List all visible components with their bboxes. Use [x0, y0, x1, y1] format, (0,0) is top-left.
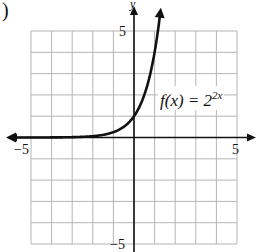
coordinate-plane — [0, 0, 258, 252]
y-tick-label-5: 5 — [119, 25, 126, 39]
axes — [8, 6, 256, 252]
x-tick-label-5: 5 — [232, 143, 239, 157]
figure-part-label: ) — [2, 0, 9, 20]
y-tick-label-neg5: −5 — [110, 238, 125, 252]
function-label-text: f(x) = 2 — [160, 91, 212, 110]
function-label: f(x) = 22x — [158, 86, 224, 110]
function-label-exponent: 2x — [212, 89, 222, 101]
x-tick-label-neg5: −5 — [14, 143, 29, 157]
function-curve — [6, 8, 165, 143]
graph-figure: ) y 5 −5 −5 5 f(x) = 22x — [0, 0, 258, 252]
y-axis-label: y — [130, 0, 135, 11]
